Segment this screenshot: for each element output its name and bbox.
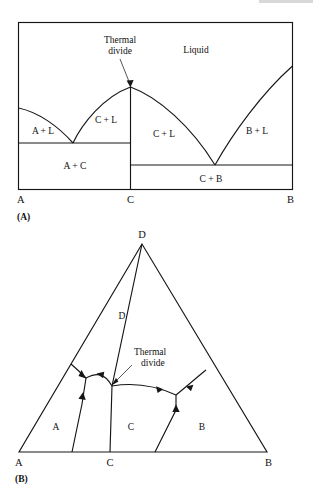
field-label-a-plus-l: A + L <box>32 126 54 136</box>
thermal-divide-label-b-line2: divide <box>141 358 165 368</box>
field-label-c-plus-b: C + B <box>200 174 223 184</box>
field-label-c-plus-l-right: C + L <box>153 129 175 139</box>
cotectic-c-d <box>112 385 176 395</box>
cotectic-a-c <box>86 375 112 386</box>
axis-label-b-right: B <box>287 194 294 205</box>
thermal-divide-label-a-line1: Thermal <box>104 35 137 45</box>
field-label-a-plus-c: A + C <box>64 161 87 171</box>
axis-label-c-middle: C <box>127 194 134 205</box>
panel-caption-a: (A) <box>17 212 30 223</box>
thermal-divide-arrowhead-a <box>127 80 134 88</box>
cotectic-c-b-arrowhead <box>172 405 179 413</box>
figure-root: Thermal divide Liquid A + L C + L C + L … <box>0 0 313 497</box>
vertex-label-d-apex: D <box>138 229 146 240</box>
thermal-divide-leader-a <box>120 59 130 84</box>
field-label-b: B <box>199 422 205 432</box>
panel-caption-b: (B) <box>15 474 28 485</box>
figure-canvas: Thermal divide Liquid A + L C + L C + L … <box>0 0 313 497</box>
panel-a-group: Thermal divide Liquid A + L C + L C + L … <box>17 23 294 224</box>
cotectic-c-b <box>155 395 176 452</box>
field-label-d: D <box>119 311 126 321</box>
vertex-label-a-left: A <box>15 457 23 468</box>
field-label-a: A <box>53 422 60 432</box>
liquidus-curve-b <box>215 66 293 165</box>
cotectic-c-d-arrowhead <box>156 386 163 393</box>
vertex-label-c-base: C <box>106 457 113 468</box>
liquidus-curve-c-right <box>131 87 216 165</box>
vertex-label-b-right: B <box>265 457 272 468</box>
field-label-c-plus-l-left: C + L <box>95 115 117 125</box>
panel-b-group: Thermal divide D A C B D A C B (B) <box>15 229 272 485</box>
field-label-liquid: Liquid <box>183 45 209 55</box>
cotectic-a-c-base-arrowhead <box>78 392 85 400</box>
thermal-divide-label-a-line2: divide <box>108 46 132 56</box>
field-label-b-plus-l: B + L <box>246 126 268 136</box>
field-label-c: C <box>128 422 134 432</box>
cotectic-a-c-base <box>72 378 86 452</box>
thermal-divide-label-b-line1: Thermal <box>134 347 167 357</box>
axis-label-a-left: A <box>17 194 25 205</box>
